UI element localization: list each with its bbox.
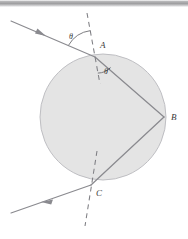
point-label-c: C (96, 188, 103, 198)
point-label-b: B (171, 112, 177, 122)
ray-diagram-canvas: A B C θ θ' (0, 0, 188, 239)
exit-ray (11, 185, 91, 213)
theta-prime-angle-label: θ' (104, 67, 110, 76)
incident-ray (11, 21, 95, 57)
point-label-a: A (99, 40, 106, 50)
ray-diagram-figure: A B C θ θ' (0, 0, 188, 239)
theta-angle-label: θ (69, 32, 73, 41)
incident-ray-arrowhead (35, 29, 46, 36)
water-drop-circle (40, 54, 166, 180)
